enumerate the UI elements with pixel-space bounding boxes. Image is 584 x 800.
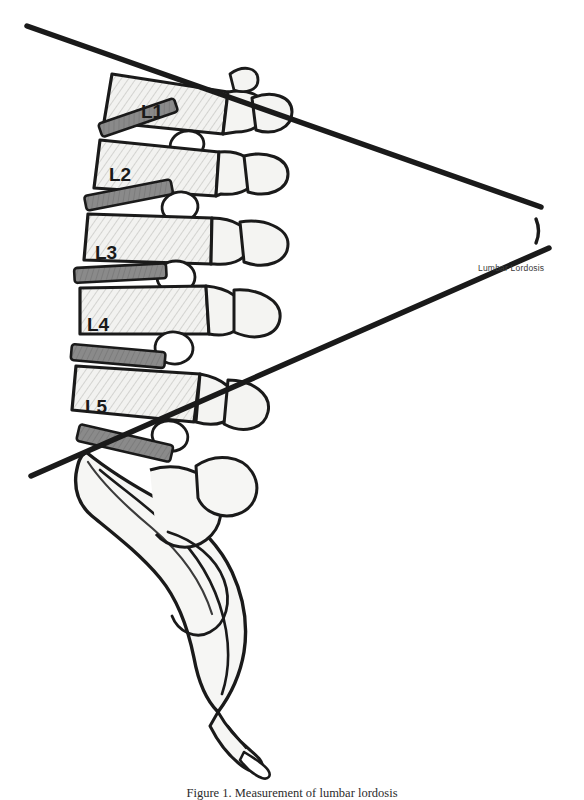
vertebra-label-L2: L2 — [109, 164, 131, 185]
vertebra-label-L1: L1 — [141, 101, 164, 122]
spine-illustration: L1 L2 L3 L4 L5 Lumbar Lordosis — [0, 0, 584, 800]
lumbar-lordosis-angle-label: Lumbar Lordosis — [478, 263, 544, 273]
spinous-process-L2 — [244, 154, 288, 194]
sacrum — [76, 452, 257, 712]
coccyx — [210, 712, 270, 779]
spinous-process-L4 — [234, 290, 280, 337]
figure-caption: Figure 1. Measurement of lumbar lordosis — [0, 786, 584, 800]
vertebra-label-L5: L5 — [85, 396, 108, 417]
disc-L3-L4 — [74, 263, 167, 283]
spine-anatomy — [71, 68, 292, 778]
disc-L4-L5 — [71, 344, 166, 368]
sacral-ala — [196, 457, 257, 516]
lumbar-lordosis-figure: L1 L2 L3 L4 L5 Lumbar Lordosis Figure 1.… — [0, 0, 584, 800]
vertebra-label-L4: L4 — [87, 314, 110, 335]
spinous-process-L3 — [240, 221, 288, 265]
articular-process-L1 — [230, 68, 258, 91]
vertebra-label-L3: L3 — [95, 242, 117, 263]
angle-arc — [536, 219, 538, 243]
